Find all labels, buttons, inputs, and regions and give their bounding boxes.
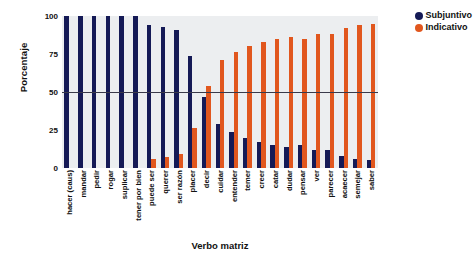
reference-line-50: [62, 92, 378, 93]
x-tick-label: puede ser: [144, 170, 158, 232]
bar-indicativo: [247, 46, 251, 168]
x-tick-label-text: rogar: [106, 170, 115, 189]
x-tick-label-text: cuidar: [215, 170, 224, 193]
bar-indicativo: [261, 42, 265, 168]
x-tick-label: querer: [158, 170, 172, 232]
bar-indicativo: [275, 39, 279, 168]
x-tick-label: temer: [241, 170, 255, 232]
x-tick-label: suplicar: [117, 170, 131, 232]
bar-chart: Porcentaje 0255075100 hacer (caus)mandar…: [0, 0, 476, 263]
x-axis-title: Verbo matriz: [62, 240, 378, 251]
x-tick-label: entender: [227, 170, 241, 232]
x-tick-label: mandar: [76, 170, 90, 232]
legend: SubjuntivoIndicativo: [415, 11, 473, 32]
bar-indicativo: [206, 86, 210, 168]
x-tick-label-text: dudar: [284, 170, 293, 191]
legend-item[interactable]: Subjuntivo: [415, 11, 473, 20]
bar-indicativo: [330, 34, 334, 168]
x-tick-label-text: semejar: [353, 170, 362, 199]
x-tick-label-text: tener por bien: [133, 170, 142, 221]
x-tick-label: tener por bien: [131, 170, 145, 232]
x-axis-tick-labels: hacer (caus)mandarpedirrogarsuplicartene…: [62, 170, 378, 232]
x-tick-label: pensar: [295, 170, 309, 232]
x-tick-label-text: acaecer: [339, 170, 348, 198]
bar-indicativo: [165, 157, 169, 168]
x-tick-label-text: querer: [161, 170, 170, 194]
bar-subjuntivo: [174, 30, 178, 168]
x-tick-label-text: ver: [312, 170, 321, 181]
x-tick-label-text: suplicar: [119, 170, 128, 199]
legend-label: Indicativo: [426, 23, 468, 32]
x-tick-label-text: creer: [257, 170, 266, 189]
x-tick-label: ver: [309, 170, 323, 232]
x-tick-label-text: puede ser: [147, 170, 156, 206]
x-tick-label-text: pedir: [92, 170, 101, 189]
x-tick-label-text: saber: [367, 170, 376, 190]
x-tick-label-text: ser razón: [174, 170, 183, 204]
x-tick-label: parecer: [323, 170, 337, 232]
x-tick-label: decir: [199, 170, 213, 232]
bar-indicativo: [302, 39, 306, 168]
y-tick-label: 25: [28, 126, 58, 135]
y-tick-label: 100: [28, 12, 58, 21]
x-tick-label-text: catar: [270, 170, 279, 188]
x-tick-label-text: decir: [202, 170, 211, 188]
bar-indicativo: [151, 159, 155, 168]
legend-marker-icon: [415, 24, 423, 32]
x-tick-label: acaecer: [337, 170, 351, 232]
x-tick-label: cuidar: [213, 170, 227, 232]
legend-marker-icon: [415, 12, 423, 20]
legend-item[interactable]: Indicativo: [415, 23, 473, 32]
x-tick-label: saber: [364, 170, 378, 232]
x-tick-label-text: entender: [229, 170, 238, 202]
y-axis-title: Porcentaje: [18, 23, 29, 113]
y-tick-label: 50: [28, 88, 58, 97]
y-axis-tick-labels: 0255075100: [28, 0, 58, 263]
x-tick-label-text: placer: [188, 170, 197, 192]
x-tick-label: catar: [268, 170, 282, 232]
x-tick-label: rogar: [103, 170, 117, 232]
x-tick-label-text: mandar: [78, 170, 87, 197]
legend-label: Subjuntivo: [426, 11, 473, 20]
bar-indicativo: [357, 25, 361, 168]
x-tick-label-text: pensar: [298, 170, 307, 195]
bar-indicativo: [289, 37, 293, 168]
y-tick-label: 75: [28, 50, 58, 59]
bar-subjuntivo: [161, 27, 165, 168]
x-tick-label: semejar: [350, 170, 364, 232]
x-tick-label-text: temer: [243, 170, 252, 191]
bar-indicativo: [316, 34, 320, 168]
y-tick-label: 0: [28, 164, 58, 173]
bar-indicativo: [371, 24, 375, 168]
x-tick-label: hacer (caus): [62, 170, 76, 232]
bar-indicativo: [192, 128, 196, 168]
bar-indicativo: [234, 52, 238, 168]
x-tick-label: dudar: [282, 170, 296, 232]
x-tick-label: ser razón: [172, 170, 186, 232]
bar-indicativo: [220, 60, 224, 168]
x-tick-label: pedir: [89, 170, 103, 232]
plot-area: [62, 16, 378, 168]
x-tick-label: placer: [186, 170, 200, 232]
x-tick-label: creer: [254, 170, 268, 232]
bar-subjuntivo: [147, 25, 151, 168]
bar-indicativo: [344, 28, 348, 168]
bar-indicativo: [179, 154, 183, 168]
x-tick-label-text: hacer (caus): [64, 170, 73, 215]
x-tick-label-text: parecer: [325, 170, 334, 197]
